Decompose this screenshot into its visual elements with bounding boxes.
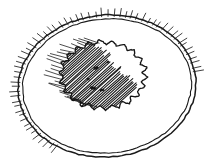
sketch-drawing bbox=[0, 0, 210, 167]
paper-background bbox=[0, 0, 210, 167]
sketch-canvas: Line drawing of a bread roll on a plate bbox=[0, 0, 210, 167]
